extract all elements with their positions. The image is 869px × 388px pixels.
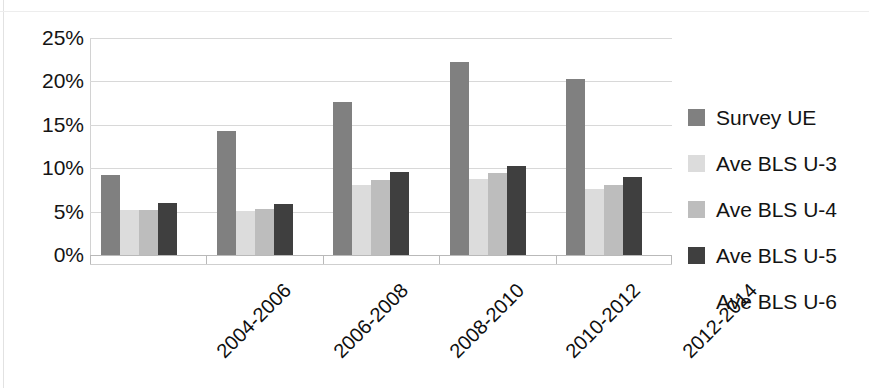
x-tick-label: 2006-2008 xyxy=(329,279,413,363)
bar xyxy=(488,173,507,255)
bar xyxy=(371,180,390,255)
bar xyxy=(623,177,642,255)
bar xyxy=(507,166,526,255)
bar-group xyxy=(90,38,206,255)
legend-swatch-icon xyxy=(688,247,705,264)
bar-group xyxy=(556,38,672,255)
legend-label: Ave BLS U-4 xyxy=(716,199,837,220)
bar xyxy=(255,209,274,255)
bar xyxy=(274,204,293,255)
y-tick-label: 20% xyxy=(6,70,84,91)
y-axis-labels: 25%20%15%10%5%0% xyxy=(0,38,84,255)
y-tick-label: 10% xyxy=(6,157,84,178)
bar xyxy=(120,210,139,255)
bar-group xyxy=(206,38,322,255)
legend-item[interactable]: Ave BLS U-4 xyxy=(688,186,869,232)
legend-item[interactable]: Ave BLS U-5 xyxy=(688,232,869,278)
y-tick-label: 25% xyxy=(6,27,84,48)
x-axis-labels: 2004-20062006-20082008-20102010-20122012… xyxy=(90,255,672,388)
legend-swatch-icon xyxy=(688,109,705,126)
legend-label: Ave BLS U-3 xyxy=(716,153,837,174)
legend-swatch-icon xyxy=(688,293,705,310)
bar xyxy=(450,62,469,255)
x-tick-label: 2008-2010 xyxy=(445,279,529,363)
bar xyxy=(585,189,604,255)
bar xyxy=(566,79,585,255)
x-tick-label: 2004-2006 xyxy=(212,279,296,363)
bar xyxy=(469,179,488,255)
bar xyxy=(333,102,352,255)
bar xyxy=(101,175,120,255)
legend-label: Ave BLS U-5 xyxy=(716,245,837,266)
bar-chart: 25%20%15%10%5%0% 2004-20062006-20082008-… xyxy=(0,0,869,388)
scan-edge-top xyxy=(0,11,869,12)
bar xyxy=(158,203,177,255)
legend-swatch-icon xyxy=(688,201,705,218)
bar xyxy=(139,210,158,255)
bar xyxy=(352,185,371,255)
bar-group xyxy=(439,38,555,255)
legend-item[interactable]: Ave BLS U-6 xyxy=(688,278,869,324)
legend-label: Ave BLS U-6 xyxy=(716,291,837,312)
legend-item[interactable]: Survey UE xyxy=(688,94,869,140)
x-tick-label: 2010-2012 xyxy=(561,279,645,363)
legend-label: Survey UE xyxy=(716,107,816,128)
bar xyxy=(390,172,409,255)
bar xyxy=(217,131,236,255)
chart-legend: Survey UEAve BLS U-3Ave BLS U-4Ave BLS U… xyxy=(688,94,869,324)
legend-item[interactable]: Ave BLS U-3 xyxy=(688,140,869,186)
plot-area xyxy=(90,38,672,255)
bar-groups xyxy=(90,38,672,255)
legend-swatch-icon xyxy=(688,155,705,172)
y-tick-label: 5% xyxy=(6,201,84,222)
y-tick-label: 0% xyxy=(6,244,84,265)
bar-group xyxy=(323,38,439,255)
bar xyxy=(604,185,623,255)
bar xyxy=(236,211,255,255)
y-tick-label: 15% xyxy=(6,114,84,135)
